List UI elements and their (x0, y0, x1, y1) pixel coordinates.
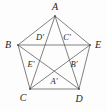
edge-A-D (55, 16, 79, 89)
pentagram-drawing (0, 0, 107, 111)
vertex-label-D: D (75, 94, 82, 104)
vertex-label-Dp: D′ (36, 33, 44, 42)
vertex-label-A: A (52, 2, 58, 12)
vertex-point-D (78, 88, 80, 90)
vertex-label-Bp: B′ (70, 60, 77, 69)
vertex-label-C: C (20, 93, 27, 103)
vertex-label-B: B (5, 40, 11, 50)
vertex-point-C (29, 88, 31, 90)
geometry-figure: ABCDED′C′E′B′A′ (0, 0, 107, 111)
vertex-point-A (54, 15, 56, 17)
vertex-label-E: E (95, 40, 101, 50)
vertex-point-B (17, 44, 19, 46)
edge-E-A (55, 16, 90, 45)
vertex-label-Ep: E′ (27, 60, 34, 69)
vertex-point-E (89, 44, 91, 46)
vertex-label-Ap: A′ (50, 77, 57, 86)
vertex-label-Cp: C′ (63, 33, 71, 42)
